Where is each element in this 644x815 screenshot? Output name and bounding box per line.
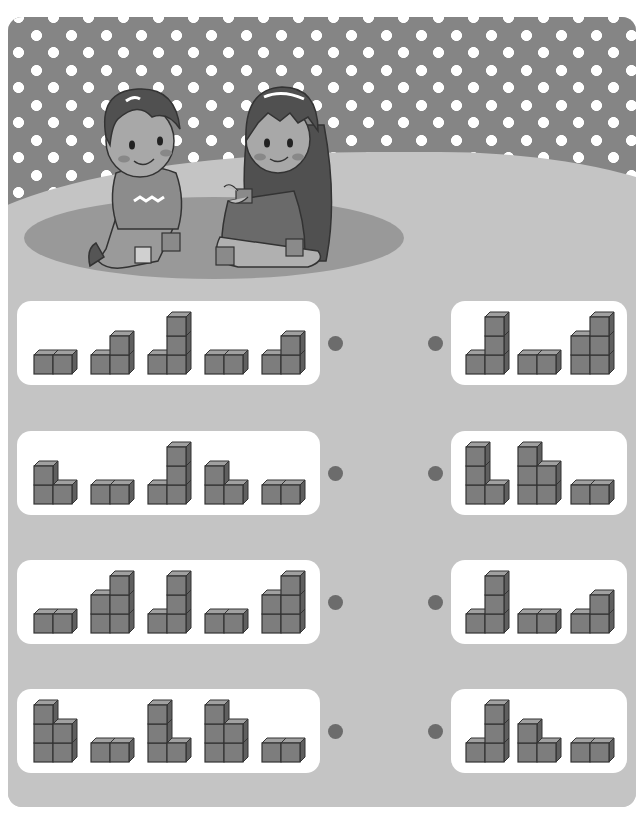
card-left-row-3 [17, 560, 320, 644]
match-dot-left-row-4[interactable] [328, 724, 343, 739]
cube-group-3 [570, 479, 615, 505]
cube-groups [451, 311, 627, 375]
cube-stack-icon [204, 608, 249, 634]
cube-group-4 [204, 349, 249, 375]
card-left-row-4 [17, 689, 320, 773]
match-dot-right-row-3[interactable] [428, 595, 443, 610]
cube-stack-icon [465, 699, 510, 763]
cube-groups [17, 570, 320, 634]
cube-stack-icon [570, 589, 615, 634]
cube-stack-icon [465, 570, 510, 634]
cube-stack-icon [33, 349, 78, 375]
cube-stack-icon [33, 699, 78, 763]
cube-group-3 [570, 311, 615, 375]
cube-group-4 [204, 699, 249, 763]
card-right-row-2 [451, 431, 627, 515]
cube-group-3 [570, 589, 615, 634]
cube-stack-icon [570, 311, 615, 375]
cube-group-2 [90, 479, 135, 505]
cube-groups [451, 570, 627, 634]
cube-stack-icon [204, 699, 249, 763]
cube-group-3 [147, 699, 192, 763]
match-dot-left-row-1[interactable] [328, 336, 343, 351]
cube-groups [17, 441, 320, 505]
cube-stack-icon [90, 737, 135, 763]
cube-stack-icon [33, 460, 78, 505]
cube-stack-icon [90, 479, 135, 505]
cube-stack-icon [147, 699, 192, 763]
match-dot-right-row-1[interactable] [428, 336, 443, 351]
cube-groups [451, 699, 627, 763]
match-dot-left-row-3[interactable] [328, 595, 343, 610]
cube-group-2 [517, 441, 562, 505]
cube-stack-icon [90, 570, 135, 634]
cube-stack-icon [517, 349, 562, 375]
cube-group-3 [147, 570, 192, 634]
cube-stack-icon [517, 441, 562, 505]
cube-group-1 [33, 460, 78, 505]
cube-group-5 [261, 737, 306, 763]
cube-stack-icon [204, 460, 249, 505]
cube-stack-icon [570, 737, 615, 763]
cube-group-2 [90, 737, 135, 763]
cube-stack-icon [90, 330, 135, 375]
card-left-row-2 [17, 431, 320, 515]
match-dot-right-row-2[interactable] [428, 466, 443, 481]
cube-group-2 [90, 330, 135, 375]
cube-group-5 [261, 570, 306, 634]
cube-group-5 [261, 330, 306, 375]
cube-stack-icon [465, 311, 510, 375]
cube-stack-icon [147, 441, 192, 505]
cube-stack-icon [261, 479, 306, 505]
cube-stack-icon [33, 608, 78, 634]
cube-stack-icon [570, 479, 615, 505]
header-cutoff-text [0, 0, 644, 8]
cube-group-2 [517, 349, 562, 375]
cube-stack-icon [261, 737, 306, 763]
match-dot-right-row-4[interactable] [428, 724, 443, 739]
cube-groups [17, 699, 320, 763]
cube-groups [451, 441, 627, 505]
cube-group-2 [517, 718, 562, 763]
card-right-row-4 [451, 689, 627, 773]
cube-group-2 [517, 608, 562, 634]
cube-group-4 [204, 608, 249, 634]
cube-stack-icon [465, 441, 510, 505]
match-dot-left-row-2[interactable] [328, 466, 343, 481]
children-playing-illustration [68, 61, 368, 281]
cube-stack-icon [147, 570, 192, 634]
cube-group-1 [465, 699, 510, 763]
cube-group-3 [570, 737, 615, 763]
cube-stack-icon [204, 349, 249, 375]
card-left-row-1 [17, 301, 320, 385]
card-right-row-3 [451, 560, 627, 644]
cube-group-1 [33, 349, 78, 375]
cube-stack-icon [517, 608, 562, 634]
cube-group-1 [33, 699, 78, 763]
cube-group-1 [465, 570, 510, 634]
cube-group-3 [147, 311, 192, 375]
cube-group-1 [465, 441, 510, 505]
cube-groups [17, 311, 320, 375]
cube-group-1 [465, 311, 510, 375]
cube-group-3 [147, 441, 192, 505]
card-right-row-1 [451, 301, 627, 385]
girl-figure [217, 87, 332, 267]
cube-group-5 [261, 479, 306, 505]
cube-group-4 [204, 460, 249, 505]
cube-stack-icon [261, 570, 306, 634]
cube-stack-icon [147, 311, 192, 375]
cube-stack-icon [261, 330, 306, 375]
cube-group-2 [90, 570, 135, 634]
cube-stack-icon [517, 718, 562, 763]
cube-group-1 [33, 608, 78, 634]
